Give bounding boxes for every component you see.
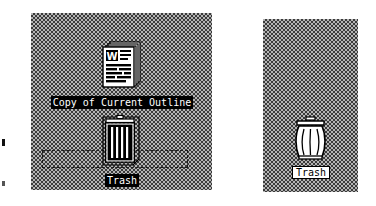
trash-icon-slot-normal[interactable] <box>286 115 336 163</box>
document-label[interactable]: Copy of Current Outline <box>51 96 193 109</box>
trash-icon-slot-selected[interactable] <box>93 113 151 169</box>
trash-label-slot-selected: Trash <box>81 169 163 188</box>
desktop-panel-idle-state: Trash <box>263 19 358 192</box>
document-label-slot: Copy of Current Outline <box>37 91 207 110</box>
word-document-icon-slot[interactable]: W <box>84 41 160 89</box>
word-logo-glyph: W <box>106 51 117 62</box>
trash-can-icon[interactable] <box>93 113 151 169</box>
trash-label-slot-normal: Trash <box>275 161 347 180</box>
trash-label[interactable]: Trash <box>105 174 139 187</box>
edge-tick-upper <box>2 139 5 146</box>
word-document-icon[interactable]: W <box>84 41 160 89</box>
trash-label[interactable]: Trash <box>292 166 330 179</box>
edge-tick-lower <box>2 181 5 186</box>
desktop-panel-drag-state: W Copy of Current Outline <box>31 13 212 190</box>
trash-can-icon[interactable] <box>286 115 336 163</box>
